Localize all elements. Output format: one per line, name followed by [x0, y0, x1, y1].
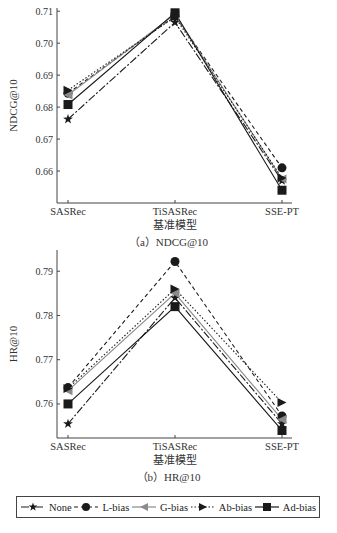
- x-tick-label: TiSASRec: [153, 441, 198, 452]
- y-axis-label: NDCG@10: [7, 79, 19, 132]
- series-line-ab-bias: [68, 17, 282, 178]
- triangle-left-marker-icon: [140, 503, 148, 511]
- square-marker-icon: [278, 186, 287, 195]
- legend-item-ad-bias: Ad-bias: [254, 502, 316, 513]
- circle-marker-icon: [82, 503, 90, 511]
- y-tick-label: 0.77: [36, 354, 54, 365]
- chart-ndcg: 0.660.670.680.690.700.71NDCG@10SASRecTiS…: [7, 6, 300, 231]
- series-line-l-bias: [68, 16, 282, 168]
- legend-label: None: [49, 502, 72, 513]
- y-tick-label: 0.71: [36, 6, 54, 17]
- x-axis-label: 基准模型: [153, 453, 197, 466]
- y-tick-label: 0.70: [36, 38, 54, 49]
- y-tick-label: 0.69: [36, 70, 54, 81]
- y-tick-label: 0.66: [36, 166, 54, 177]
- chart-legend: None L-bias G-bias Ab-bias Ad-bias: [16, 496, 320, 518]
- series-line-none: [68, 22, 282, 180]
- circle-marker-icon: [73, 502, 99, 512]
- series-line-g-bias: [68, 14, 282, 179]
- chart-hr: 0.760.770.780.79HR@10SASRecTiSASRecSSE-P…: [7, 250, 300, 466]
- square-marker-icon: [263, 503, 271, 511]
- y-axis-label: HR@10: [7, 325, 19, 362]
- y-tick-label: 0.78: [36, 310, 54, 321]
- circle-marker-icon: [278, 163, 287, 172]
- legend-item-ab-bias: Ab-bias: [190, 502, 252, 513]
- square-marker-icon: [171, 8, 180, 17]
- square-marker-icon: [64, 100, 73, 109]
- series-line-ad-bias: [68, 13, 282, 190]
- caption-ndcg: （a）NDCG@10: [0, 233, 337, 249]
- square-marker-icon: [64, 399, 73, 408]
- series-line-g-bias: [68, 293, 282, 419]
- y-tick-label: 0.68: [36, 102, 54, 113]
- x-tick-label: SSE-PT: [265, 441, 299, 452]
- square-marker-icon: [171, 302, 180, 311]
- circle-marker-icon: [171, 257, 180, 266]
- legend-label: Ab-bias: [219, 502, 252, 513]
- triangle-left-marker-icon: [131, 502, 157, 512]
- legend-label: L-bias: [102, 502, 129, 513]
- star-marker-icon: [20, 502, 46, 512]
- y-tick-label: 0.79: [36, 266, 54, 277]
- legend-item-none: None: [20, 502, 72, 513]
- x-tick-label: SSE-PT: [265, 206, 299, 217]
- triangle-right-marker-icon: [199, 503, 207, 511]
- y-tick-label: 0.76: [36, 398, 54, 409]
- legend-item-l-bias: L-bias: [73, 502, 129, 513]
- square-marker-icon: [278, 426, 287, 435]
- triangle-right-marker-icon: [190, 502, 216, 512]
- series-line-ad-bias: [68, 307, 282, 431]
- triangle-right-marker-icon: [278, 398, 287, 407]
- caption-hr: （b）HR@10: [0, 468, 337, 484]
- x-tick-label: TiSASRec: [153, 206, 198, 217]
- x-tick-label: SASRec: [50, 206, 86, 217]
- x-axis-label: 基准模型: [153, 218, 197, 231]
- y-tick-label: 0.67: [36, 134, 54, 145]
- legend-item-g-bias: G-bias: [131, 502, 188, 513]
- figure: 0.660.670.680.690.700.71NDCG@10SASRecTiS…: [0, 0, 337, 533]
- square-marker-icon: [254, 502, 280, 512]
- legend-label: Ad-bias: [283, 502, 316, 513]
- x-tick-label: SASRec: [50, 441, 86, 452]
- legend-label: G-bias: [160, 502, 188, 513]
